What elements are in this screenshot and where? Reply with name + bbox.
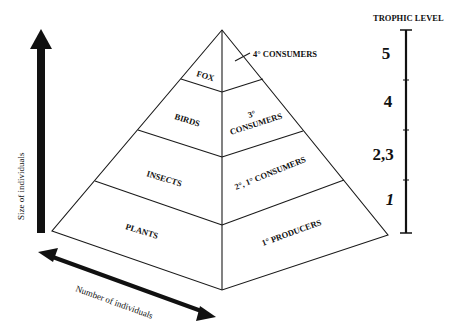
tier-label-3rd-consumers-line2: CONSUMERS <box>229 111 284 137</box>
tier-label-plants: PLANTS <box>124 221 159 240</box>
trophic-level-5: 5 <box>382 44 391 63</box>
tier-label-insects: INSECTS <box>145 168 183 188</box>
pyramid <box>52 30 388 290</box>
tier-label-1st-producers: 1° PRODUCERS <box>260 217 323 248</box>
size-axis-shaft <box>37 48 45 233</box>
up-arrow-icon <box>30 29 52 49</box>
leader-line <box>235 53 250 61</box>
size-axis-label: Size of individuals <box>16 152 26 220</box>
tier-divider-left-2 <box>138 130 222 157</box>
tier-label-2nd-1st-consumers: 2°, 1° CONSUMERS <box>233 154 307 192</box>
tier-label-4th-consumers: 4° CONSUMERS <box>253 49 317 59</box>
trophic-level-4: 4 <box>384 92 393 111</box>
trophic-level-2-3: 2,3 <box>372 145 393 164</box>
tier-divider-left-3 <box>95 181 222 225</box>
pyramid-outline <box>52 30 388 290</box>
size-axis-arrow <box>30 29 52 233</box>
pyramid-diagram: Size of individuals Number of individual… <box>0 0 460 335</box>
trophic-scale: TROPHIC LEVEL 5 4 2,3 1 <box>372 13 444 233</box>
trophic-level-1: 1 <box>386 190 395 209</box>
tier-divider-left-1 <box>181 79 222 92</box>
tier-label-fox: FOX <box>195 68 216 83</box>
trophic-scale-title: TROPHIC LEVEL <box>373 13 444 23</box>
tier-divider-right-1 <box>222 79 263 92</box>
tier-label-birds: BIRDS <box>173 111 201 128</box>
